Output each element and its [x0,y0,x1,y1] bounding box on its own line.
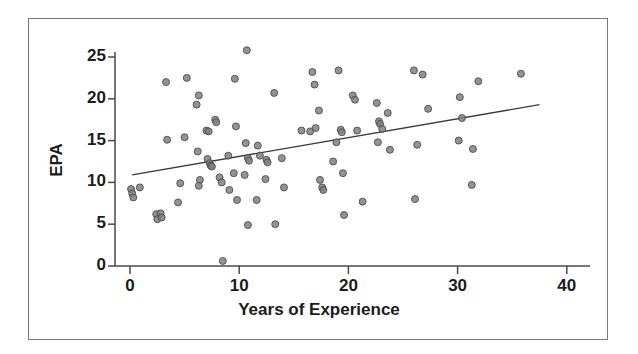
y-tick-label: 10 [74,171,106,191]
data-point [177,180,184,187]
data-point [414,141,421,148]
y-tick-label: 5 [74,213,106,233]
data-point [130,194,137,201]
x-tick-label: 40 [553,276,581,296]
data-point [410,67,417,74]
data-point [455,137,462,144]
data-point [351,96,358,103]
data-point [225,152,232,159]
y-tick-label: 15 [74,130,106,150]
x-tick-label: 10 [225,276,253,296]
data-point [158,214,165,221]
data-point [475,78,482,85]
data-point [412,196,419,203]
data-point [253,196,260,203]
x-tick-label: 30 [444,276,472,296]
x-tick-label: 20 [334,276,362,296]
y-tick-label: 0 [74,255,106,275]
data-point [330,158,337,165]
data-point [341,212,348,219]
data-point [262,176,269,183]
data-point [333,139,340,146]
data-point [181,134,188,141]
data-point [272,221,279,228]
data-point [241,171,248,178]
data-point [231,75,238,82]
data-point [136,184,143,191]
data-point [208,163,215,170]
scatter-plot-figure: EPA 010203040 0510152025 Years of Experi… [0,0,638,354]
data-point [163,79,170,86]
data-point [379,125,386,132]
data-point [254,142,261,149]
data-point [315,107,322,114]
data-point [280,184,287,191]
data-point [226,186,233,193]
data-point [298,127,305,134]
data-point [320,186,327,193]
data-point [246,157,253,164]
data-point [175,199,182,206]
data-point [359,198,366,205]
data-point [425,105,432,112]
data-point [354,127,361,134]
data-point [517,70,524,77]
data-point [264,159,271,166]
data-point [193,101,200,108]
data-point [194,148,201,155]
data-point [386,146,393,153]
tick-marks [108,57,567,274]
data-point [374,139,381,146]
x-axis-title: Years of Experience [0,300,638,320]
data-point [183,74,190,81]
data-point [373,99,380,106]
data-point [218,179,225,186]
data-point [213,119,220,126]
data-point [205,128,212,135]
data-point [456,94,463,101]
y-axis-title-text: EPA [47,143,66,177]
data-point [244,222,251,229]
y-tick-label: 20 [74,88,106,108]
data-point [419,71,426,78]
y-axis-title: EPA [47,143,66,177]
data-point [458,115,465,122]
data-point [338,129,345,136]
data-point [195,92,202,99]
data-point [234,196,241,203]
x-tick-label: 0 [116,276,144,296]
data-point [469,145,476,152]
data-point [468,181,475,188]
data-point [242,140,249,147]
data-point [278,155,285,162]
data-point [195,182,202,189]
data-point [256,152,263,159]
data-point [243,47,250,54]
data-point [384,110,391,117]
data-point [164,136,171,143]
data-point [339,170,346,177]
data-point [335,67,342,74]
data-point [309,69,316,76]
data-point [317,176,324,183]
data-point [230,170,237,177]
data-point [271,89,278,96]
y-tick-label: 25 [74,46,106,66]
data-point [311,81,318,88]
data-point [232,123,239,130]
axis-lines [115,52,590,266]
data-point [312,125,319,132]
data-point [219,257,226,264]
data-points [128,47,525,265]
